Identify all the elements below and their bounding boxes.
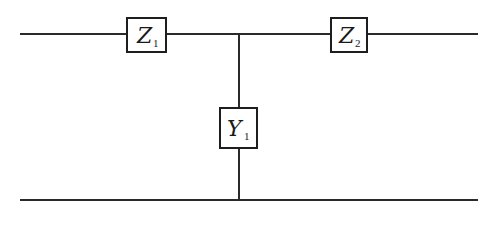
z1-subscript: 1 xyxy=(153,37,159,49)
t-network-diagram: Z 1 Z 2 Y 1 xyxy=(0,0,491,231)
y1-subscript: 1 xyxy=(244,130,250,142)
z2-component: Z 2 xyxy=(331,18,367,52)
z1-symbol: Z xyxy=(136,23,153,48)
z1-component: Z 1 xyxy=(127,18,166,52)
y1-symbol: Y xyxy=(227,116,244,141)
y1-component: Y 1 xyxy=(220,108,257,148)
z2-symbol: Z xyxy=(338,23,355,48)
z2-subscript: 2 xyxy=(355,37,361,49)
